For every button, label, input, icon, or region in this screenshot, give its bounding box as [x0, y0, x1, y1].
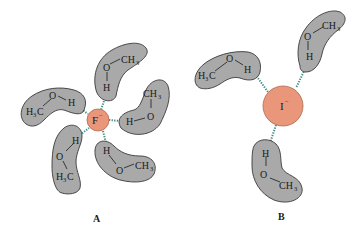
atom-h: H: [72, 135, 79, 146]
atom-o: O: [49, 90, 56, 101]
atom-o: O: [116, 165, 123, 176]
atom-h: H: [244, 64, 251, 75]
subscript-3: 3: [158, 93, 161, 100]
atom-h: H: [126, 116, 133, 127]
atom-c: C: [67, 171, 74, 182]
atom-o: O: [56, 151, 63, 162]
atom-c: C: [37, 106, 44, 117]
fluoride-ion: F −: [87, 109, 109, 131]
atom-h: H: [306, 51, 313, 62]
atom-o: O: [226, 53, 233, 64]
panel-a: O H CH 3 H O CH 3 H 3 C O H: [21, 43, 169, 224]
atom-o: O: [103, 62, 110, 73]
ion-symbol: F: [92, 114, 98, 126]
hbond-top: [101, 101, 104, 110]
panel-label-a: A: [93, 213, 101, 224]
panel-b: H 3 C O H O H CH 3 H O CH 3: [195, 11, 345, 222]
atom-o: O: [304, 31, 311, 42]
subscript-3: 3: [150, 165, 153, 172]
methanol-left: H 3 C O H: [195, 52, 260, 89]
methanol-top-right: O H CH 3: [298, 11, 345, 72]
panel-label-b: B: [278, 211, 285, 222]
ion-charge: −: [285, 98, 289, 105]
methanol-top: O H CH 3: [95, 43, 147, 101]
atom-c: C: [209, 70, 216, 81]
ion-symbol: I: [280, 100, 284, 112]
methanol-lower-right: H O CH 3: [95, 141, 155, 182]
subscript-3: 3: [337, 25, 340, 32]
atom-ch: CH: [135, 160, 149, 171]
methanol-lower-left: H O H 3 C: [52, 125, 82, 194]
iodide-ion: I −: [263, 86, 303, 126]
ion-charge: −: [99, 112, 103, 119]
solvation-diagram: O H CH 3 H O CH 3 H 3 C O H: [0, 0, 364, 231]
subscript-3: 3: [63, 176, 66, 183]
atom-ch: CH: [143, 88, 157, 99]
subscript-3: 3: [136, 59, 139, 66]
methanol-right: H O CH 3: [119, 80, 169, 134]
atom-ch: CH: [279, 180, 293, 191]
methanol-bottom: H O CH 3: [252, 140, 302, 202]
subscript-3: 3: [205, 75, 208, 82]
methanol-left: H 3 C O H: [21, 88, 85, 126]
subscript-3: 3: [33, 111, 36, 118]
subscript-3: 3: [294, 185, 297, 192]
atom-h: H: [103, 82, 110, 93]
atom-ch: CH: [322, 20, 336, 31]
atom-h: H: [68, 97, 75, 108]
atom-ch: CH: [121, 54, 135, 65]
atom-h: H: [103, 145, 110, 156]
atom-h: H: [262, 148, 269, 159]
atom-o: O: [260, 169, 267, 180]
atom-o: O: [147, 111, 154, 122]
